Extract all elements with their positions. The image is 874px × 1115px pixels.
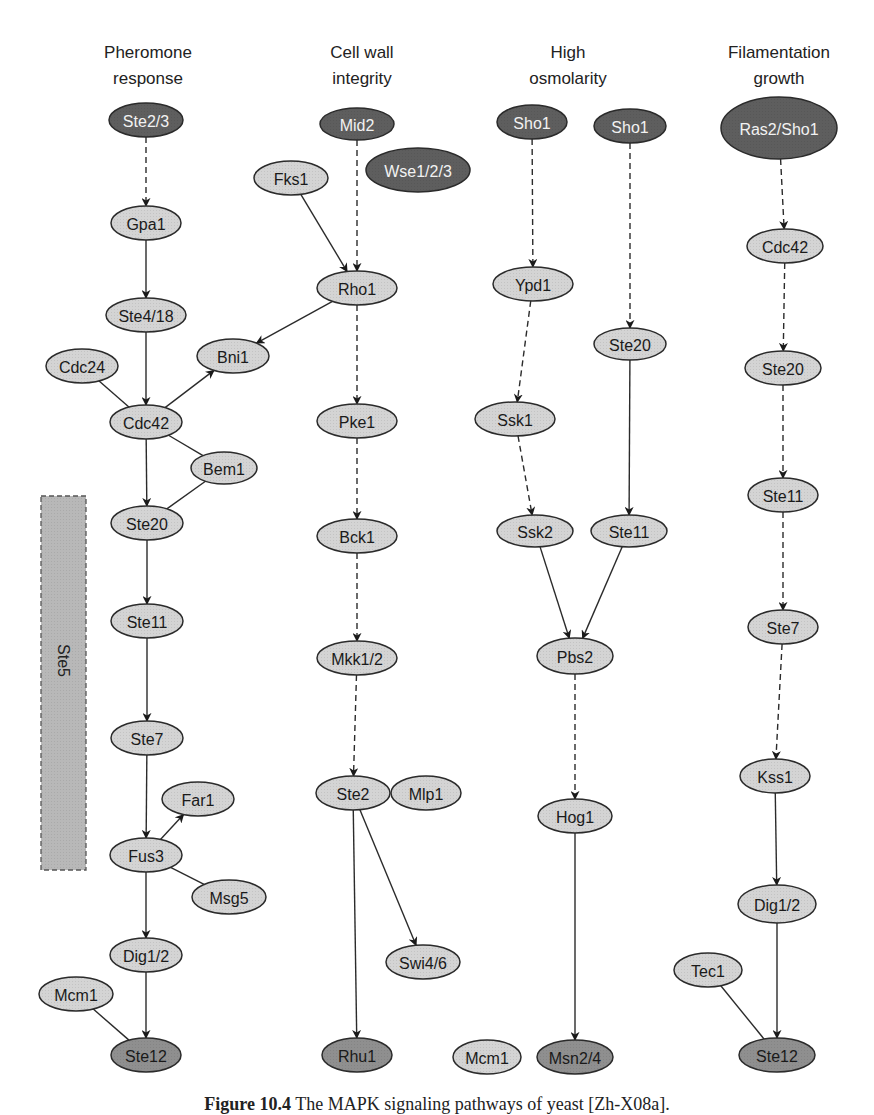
edge-p_mcm1-to-p_ste12 xyxy=(93,1009,129,1040)
node-label: Ste20 xyxy=(126,516,168,533)
node-f_ras2sho1: Ras2/Sho1 xyxy=(721,97,837,159)
figure-caption-text: The MAPK signaling pathways of yeast [Zh… xyxy=(295,1094,669,1114)
node-p_bni1: Bni1 xyxy=(197,339,269,373)
column-title-cwi: Cell wallintegrity xyxy=(330,43,393,88)
node-label: Sho1 xyxy=(513,115,550,132)
node-c_mlp1: Mlp1 xyxy=(391,776,461,810)
node-c_mkk12: Mkk1/2 xyxy=(317,641,397,675)
node-p_ste12: Ste12 xyxy=(111,1038,181,1072)
node-c_bck1: Bck1 xyxy=(317,519,397,553)
node-p_ste20: Ste20 xyxy=(111,506,183,540)
node-label: Kss1 xyxy=(757,769,793,786)
node-label: Ste11 xyxy=(609,524,650,541)
edge-f_ras2sho1-to-f_cdc42 xyxy=(781,159,785,229)
edge-p_cdc24-to-p_cdc42 xyxy=(99,381,129,407)
node-c_swi46: Swi4/6 xyxy=(386,945,460,979)
column-title-line: osmolarity xyxy=(529,69,607,88)
node-f_dig12: Dig1/2 xyxy=(738,885,816,923)
node-label: Gpa1 xyxy=(126,216,165,233)
ste5-label: Ste5 xyxy=(55,644,72,677)
node-p_msg5: Msg5 xyxy=(192,880,266,914)
node-h_sho1a: Sho1 xyxy=(497,105,567,139)
node-label: Tec1 xyxy=(691,963,725,980)
edge-p_fus3-to-p_far1 xyxy=(160,815,183,840)
figure-caption-label: Figure 10.4 xyxy=(204,1094,291,1114)
node-label: Mcm1 xyxy=(54,987,98,1004)
node-label: Fks1 xyxy=(274,171,309,188)
node-h_ste20: Ste20 xyxy=(594,328,666,360)
node-label: Dig1/2 xyxy=(123,948,169,965)
node-f_ste20: Ste20 xyxy=(745,351,821,385)
edge-h_ssk2-to-h_pbs2 xyxy=(540,547,569,638)
column-title-line: growth xyxy=(753,69,804,88)
node-label: Ste12 xyxy=(756,1048,798,1065)
edge-h_ypd1-to-h_ssk1 xyxy=(517,301,530,402)
node-f_ste11: Ste11 xyxy=(748,478,818,512)
node-label: Fus3 xyxy=(128,848,164,865)
node-label: Pbs2 xyxy=(557,649,594,666)
node-h_msn24: Msn2/4 xyxy=(537,1040,613,1074)
node-label: Ssk1 xyxy=(497,412,533,429)
protein-nodes: Ste2/3Gpa1Ste4/18Cdc24Bni1Cdc42Bem1Ste20… xyxy=(39,97,837,1074)
node-p_ste23: Ste2/3 xyxy=(109,103,183,137)
node-c_rhu1: Rhu1 xyxy=(322,1038,392,1072)
edge-p_fus3-to-p_msg5 xyxy=(171,867,205,884)
edge-f_kss1-to-f_dig12 xyxy=(775,793,776,885)
node-label: Ste7 xyxy=(767,620,800,637)
node-label: Ste11 xyxy=(763,488,804,505)
node-label: Cdc24 xyxy=(59,359,105,376)
node-label: Ypd1 xyxy=(515,277,551,294)
column-title-line: integrity xyxy=(332,69,392,88)
node-label: Bem1 xyxy=(203,461,245,478)
node-h_mcm1: Mcm1 xyxy=(453,1040,521,1074)
column-title-line: response xyxy=(113,69,183,88)
column-title-hog: Highosmolarity xyxy=(529,43,607,88)
node-p_bem1: Bem1 xyxy=(191,452,257,484)
edge-f_ste7-to-f_kss1 xyxy=(776,644,782,759)
node-label: Ste4/18 xyxy=(118,308,173,325)
column-title-fg: Filamentationgrowth xyxy=(728,43,830,88)
column-title-line: Cell wall xyxy=(330,43,393,62)
node-c_mid2: Mid2 xyxy=(320,108,394,140)
node-f_cdc42: Cdc42 xyxy=(747,229,823,263)
node-p_fus3: Fus3 xyxy=(110,838,182,872)
edge-p_cdc42-to-p_bem1 xyxy=(169,435,204,455)
node-label: Far1 xyxy=(182,792,215,809)
edge-p_ste7-to-p_fus3 xyxy=(146,755,147,838)
node-label: Ste20 xyxy=(762,361,804,378)
edge-h_ste11-to-h_pbs2 xyxy=(583,547,623,639)
node-c_fks1: Fks1 xyxy=(254,161,328,195)
node-label: Ssk2 xyxy=(517,524,553,541)
node-label: Hog1 xyxy=(556,809,594,826)
edge-p_cdc42-to-p_bni1 xyxy=(165,370,214,407)
node-p_mcm1: Mcm1 xyxy=(39,977,113,1011)
node-label: Bck1 xyxy=(339,529,375,546)
node-p_cdc42: Cdc42 xyxy=(110,405,182,439)
edge-p_bem1-to-p_ste20 xyxy=(167,481,206,509)
column-title-line: Pheromone xyxy=(104,43,192,62)
edge-p_cdc42-to-p_ste20 xyxy=(146,439,147,506)
node-label: Msn2/4 xyxy=(549,1050,602,1067)
edge-h_ste20-to-h_ste11 xyxy=(629,360,630,515)
node-h_ypd1: Ypd1 xyxy=(493,267,573,301)
node-h_ssk2: Ssk2 xyxy=(497,515,573,547)
node-label: Sho1 xyxy=(611,119,648,136)
node-p_ste7: Ste7 xyxy=(111,721,183,755)
column-title-line: High xyxy=(551,43,586,62)
edge-f_cdc42-to-f_ste20 xyxy=(783,263,784,351)
node-p_ste11: Ste11 xyxy=(111,604,183,638)
node-label: Cdc42 xyxy=(762,239,808,256)
node-label: Bni1 xyxy=(217,349,249,366)
node-label: Ste7 xyxy=(131,731,164,748)
edge-c_fks1-to-c_rho1 xyxy=(301,194,347,271)
node-c_ste2: Ste2 xyxy=(316,776,390,810)
node-f_tec1: Tec1 xyxy=(674,953,742,987)
node-h_hog1: Hog1 xyxy=(538,799,612,833)
edge-f_tec1-to-f_ste12 xyxy=(721,986,764,1039)
node-label: Rhu1 xyxy=(338,1048,376,1065)
node-label: Ste12 xyxy=(125,1048,167,1065)
edge-c_ste2-to-c_rhu1 xyxy=(353,810,356,1038)
node-h_ste11: Ste11 xyxy=(591,515,667,547)
figure-caption: Figure 10.4 The MAPK signaling pathways … xyxy=(0,1094,874,1115)
